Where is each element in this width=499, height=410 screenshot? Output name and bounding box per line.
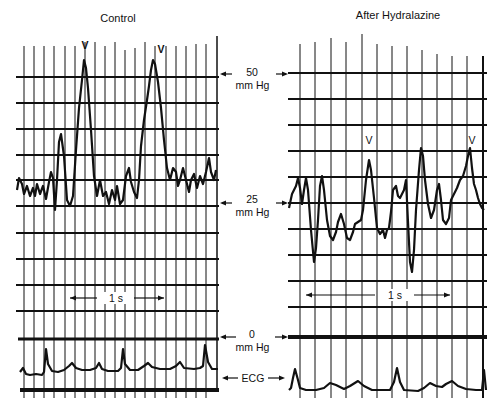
left-horizontal-gridlines <box>16 77 219 390</box>
label-0-value: 0 <box>237 328 267 340</box>
left-ecg-trace <box>20 345 218 375</box>
label-ecg: ECG <box>238 372 268 384</box>
right-v-marker-1: V <box>364 134 374 146</box>
left-vertical-gridlines <box>24 36 217 398</box>
label-50-unit: mm Hg <box>230 79 275 91</box>
label-25-unit: mm Hg <box>230 206 275 218</box>
label-25-value: 25 <box>237 193 267 205</box>
left-time-scale-label: 1 s <box>101 292 131 304</box>
label-50-value: 50 <box>237 66 267 78</box>
right-ecg-trace <box>289 368 486 391</box>
right-time-scale-label: 1 s <box>380 289 410 301</box>
label-0-unit: mm Hg <box>230 341 275 353</box>
right-pressure-trace <box>289 148 484 272</box>
left-v-marker-2: V <box>156 43 166 55</box>
left-v-marker-1: V <box>80 39 90 51</box>
left-panel-title: Control <box>68 12 168 24</box>
right-v-marker-2: V <box>467 134 477 146</box>
right-panel-title: After Hydralazine <box>328 9 468 21</box>
